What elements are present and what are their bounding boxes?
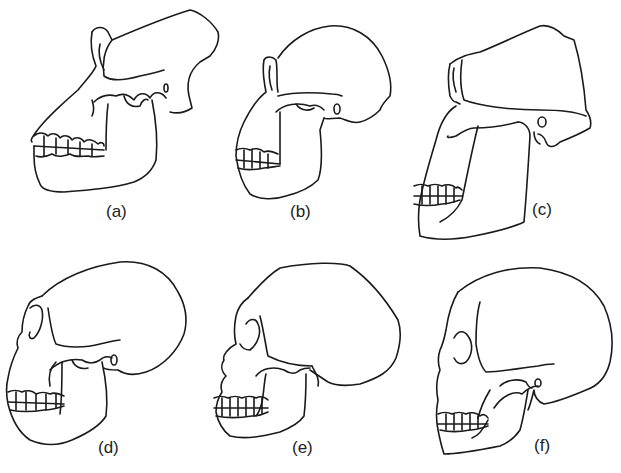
skull-panel-d: (d) bbox=[0, 240, 210, 473]
skull-panel-b: (b) bbox=[220, 0, 420, 240]
panel-label-e: (e) bbox=[292, 438, 313, 458]
panel-label-b: (b) bbox=[290, 202, 311, 222]
panel-label-c: (c) bbox=[532, 200, 552, 220]
skull-drawing-f bbox=[410, 240, 621, 473]
skull-panel-c: (c) bbox=[400, 0, 621, 250]
skull-drawing-c bbox=[400, 0, 621, 250]
skull-panel-f: (f) bbox=[410, 240, 621, 473]
skull-panel-e: (e) bbox=[200, 240, 420, 473]
panel-label-f: (f) bbox=[534, 436, 550, 456]
skull-panel-a: (a) bbox=[0, 0, 230, 240]
panel-label-d: (d) bbox=[98, 438, 119, 458]
skull-drawing-b bbox=[220, 0, 420, 240]
panel-label-a: (a) bbox=[106, 202, 127, 222]
